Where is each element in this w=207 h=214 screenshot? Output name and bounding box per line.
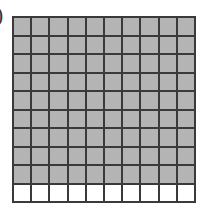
shaded-cell	[50, 129, 66, 146]
shaded-cell	[160, 18, 176, 35]
shaded-cell	[160, 166, 176, 183]
shaded-cell	[105, 166, 121, 183]
shaded-cell	[141, 37, 157, 54]
shaded-cell	[178, 55, 194, 72]
figure-label: )	[0, 6, 4, 26]
shaded-cell	[14, 166, 30, 183]
shaded-cell	[87, 18, 103, 35]
shaded-cell	[123, 37, 139, 54]
shaded-cell	[141, 129, 157, 146]
shaded-cell	[87, 37, 103, 54]
shaded-cell	[69, 74, 85, 91]
shaded-cell	[123, 18, 139, 35]
shaded-cell	[141, 74, 157, 91]
shaded-cell	[87, 111, 103, 128]
shaded-cell	[160, 37, 176, 54]
shaded-cell	[141, 55, 157, 72]
unshaded-cell	[105, 185, 121, 202]
shaded-cell	[105, 55, 121, 72]
shaded-cell	[178, 74, 194, 91]
shaded-cell	[50, 92, 66, 109]
shaded-cell	[69, 92, 85, 109]
unshaded-cell	[160, 185, 176, 202]
shaded-cell	[50, 18, 66, 35]
shaded-cell	[50, 111, 66, 128]
shaded-cell	[178, 129, 194, 146]
shaded-cell	[69, 148, 85, 165]
shaded-cell	[178, 111, 194, 128]
shaded-cell	[123, 74, 139, 91]
shaded-cell	[32, 129, 48, 146]
shaded-cell	[160, 111, 176, 128]
shaded-cell	[123, 55, 139, 72]
shaded-cell	[50, 166, 66, 183]
shaded-cell	[14, 148, 30, 165]
shaded-cell	[69, 129, 85, 146]
shaded-cell	[87, 55, 103, 72]
shaded-cell	[105, 129, 121, 146]
shaded-cell	[87, 129, 103, 146]
shaded-cell	[141, 111, 157, 128]
shaded-cell	[105, 92, 121, 109]
shaded-cell	[87, 148, 103, 165]
shaded-cell	[178, 148, 194, 165]
shaded-cell	[69, 111, 85, 128]
shaded-cell	[123, 148, 139, 165]
shaded-cell	[14, 74, 30, 91]
shaded-cell	[141, 148, 157, 165]
shaded-cell	[178, 92, 194, 109]
shaded-cell	[32, 37, 48, 54]
shaded-cell	[50, 148, 66, 165]
shaded-cell	[141, 166, 157, 183]
shaded-cell	[50, 37, 66, 54]
unshaded-cell	[14, 185, 30, 202]
hundred-grid	[12, 16, 196, 203]
unshaded-cell	[141, 185, 157, 202]
shaded-cell	[87, 166, 103, 183]
shaded-cell	[14, 129, 30, 146]
shaded-cell	[14, 55, 30, 72]
shaded-cell	[141, 18, 157, 35]
shaded-cell	[14, 92, 30, 109]
shaded-cell	[178, 166, 194, 183]
shaded-cell	[105, 111, 121, 128]
shaded-cell	[87, 74, 103, 91]
shaded-cell	[32, 92, 48, 109]
shaded-cell	[160, 148, 176, 165]
shaded-cell	[32, 74, 48, 91]
shaded-cell	[69, 18, 85, 35]
shaded-cell	[105, 37, 121, 54]
shaded-cell	[123, 92, 139, 109]
shaded-cell	[32, 55, 48, 72]
unshaded-cell	[69, 185, 85, 202]
shaded-cell	[105, 74, 121, 91]
unshaded-cell	[178, 185, 194, 202]
shaded-cell	[69, 37, 85, 54]
shaded-cell	[69, 166, 85, 183]
shaded-cell	[178, 18, 194, 35]
shaded-cell	[14, 111, 30, 128]
unshaded-cell	[123, 185, 139, 202]
shaded-cell	[160, 92, 176, 109]
unshaded-cell	[50, 185, 66, 202]
shaded-cell	[160, 74, 176, 91]
shaded-cell	[105, 18, 121, 35]
shaded-cell	[50, 55, 66, 72]
shaded-cell	[123, 129, 139, 146]
unshaded-cell	[87, 185, 103, 202]
shaded-cell	[14, 18, 30, 35]
shaded-cell	[141, 92, 157, 109]
shaded-cell	[123, 111, 139, 128]
shaded-cell	[32, 148, 48, 165]
unshaded-cell	[32, 185, 48, 202]
shaded-cell	[32, 18, 48, 35]
shaded-cell	[160, 55, 176, 72]
shaded-cell	[160, 129, 176, 146]
shaded-cell	[32, 166, 48, 183]
shaded-cell	[105, 148, 121, 165]
shaded-cell	[123, 166, 139, 183]
shaded-cell	[14, 37, 30, 54]
shaded-cell	[50, 74, 66, 91]
shaded-cell	[69, 55, 85, 72]
shaded-cell	[178, 37, 194, 54]
